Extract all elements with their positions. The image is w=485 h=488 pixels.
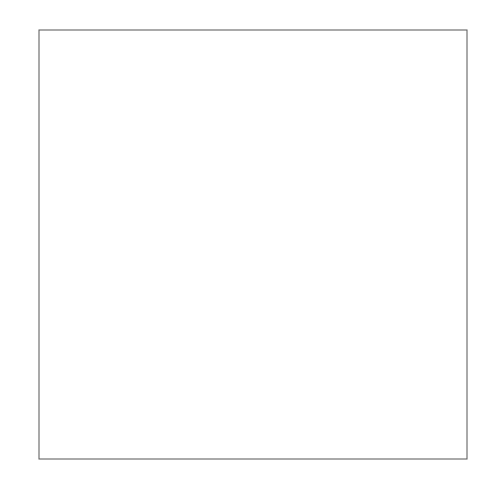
axes-frame <box>39 30 467 459</box>
plot-area <box>39 30 467 459</box>
contour-figure <box>0 0 485 488</box>
